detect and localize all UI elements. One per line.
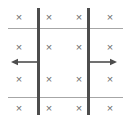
x-field-into-page-marker: ×	[46, 74, 52, 85]
left-arrow-head-icon	[11, 59, 18, 65]
x-field-into-page-marker: ×	[107, 42, 113, 53]
x-field-into-page-marker: ×	[16, 103, 22, 114]
x-field-into-page-marker: ×	[76, 42, 82, 53]
x-field-into-page-marker: ×	[46, 42, 52, 53]
vertical-lines-group	[39, 8, 89, 115]
right-arrow-head-icon	[110, 59, 117, 65]
field-diagram-figure: ××××××××××××××××	[0, 0, 131, 123]
x-field-into-page-marker: ×	[107, 74, 113, 85]
x-field-into-page-marker: ×	[76, 103, 82, 114]
arrows-group	[11, 59, 117, 65]
horizontal-lines-group	[8, 29, 123, 98]
x-field-into-page-marker: ×	[46, 12, 52, 23]
x-field-into-page-marker: ×	[107, 103, 113, 114]
x-field-into-page-marker: ×	[107, 12, 113, 23]
x-field-into-page-marker: ×	[16, 42, 22, 53]
x-field-into-page-marker: ×	[16, 74, 22, 85]
x-field-into-page-marker: ×	[46, 103, 52, 114]
x-field-into-page-marker: ×	[76, 74, 82, 85]
x-field-into-page-marker: ×	[76, 12, 82, 23]
x-field-into-page-marker: ×	[16, 12, 22, 23]
